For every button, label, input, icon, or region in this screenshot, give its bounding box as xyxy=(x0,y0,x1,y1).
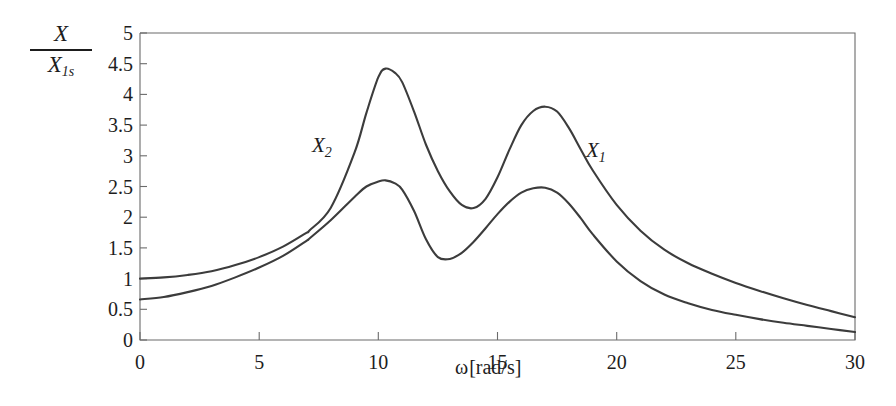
x-axis-label-unit: [rad/s] xyxy=(469,356,521,378)
y-tick-label: 3 xyxy=(123,145,133,167)
y-axis-denominator-base: X xyxy=(48,52,62,77)
curve-x2 xyxy=(140,68,855,317)
y-axis-ticks xyxy=(140,33,147,340)
y-axis-label-denominator: X1s xyxy=(30,53,92,79)
y-tick-label: 0.5 xyxy=(108,298,133,320)
y-axis-label-numerator: X xyxy=(30,22,92,46)
series-label-x2-base: X xyxy=(311,133,326,157)
y-axis-tick-labels: 0 0.5 1 1.5 2 2.5 3 3.5 4 4.5 5 xyxy=(108,22,133,351)
plot-area: 0 0.5 1 1.5 2 2.5 3 3.5 4 4.5 5 0 5 10 1… xyxy=(0,0,896,406)
series-label-x1-subscript: 1 xyxy=(599,150,606,165)
y-tick-label: 4.5 xyxy=(108,53,133,75)
plot-frame xyxy=(140,33,855,340)
x-tick-label: 5 xyxy=(254,351,264,373)
x-axis-label-symbol: ω xyxy=(455,356,468,378)
y-tick-label: 3.5 xyxy=(108,114,133,136)
x-tick-label: 0 xyxy=(135,351,145,373)
x-tick-label: 20 xyxy=(607,351,627,373)
y-tick-label: 2.5 xyxy=(108,176,133,198)
y-tick-label: 2 xyxy=(123,206,133,228)
x-tick-label: 10 xyxy=(368,351,388,373)
series-label-x2: X2 xyxy=(311,133,332,160)
y-tick-label: 4 xyxy=(123,83,133,105)
series-label-x1: X1 xyxy=(585,138,606,165)
curve-x1 xyxy=(140,180,855,332)
fraction-bar xyxy=(30,49,92,51)
y-tick-label: 1.5 xyxy=(108,237,133,259)
x-tick-label: 30 xyxy=(845,351,865,373)
series-label-x1-base: X xyxy=(585,138,600,162)
chart-figure: X X1s xyxy=(0,0,896,406)
x-axis-label: ω[rad/s] xyxy=(455,356,521,378)
y-axis-denominator-subscript: 1s xyxy=(62,63,74,78)
y-tick-label: 1 xyxy=(123,268,133,290)
series-label-x2-subscript: 2 xyxy=(325,145,332,160)
x-tick-label: 25 xyxy=(726,351,746,373)
x-axis-ticks xyxy=(140,332,855,340)
y-axis-label: X X1s xyxy=(30,22,92,79)
y-tick-label: 5 xyxy=(123,22,133,44)
y-tick-label: 0 xyxy=(123,329,133,351)
